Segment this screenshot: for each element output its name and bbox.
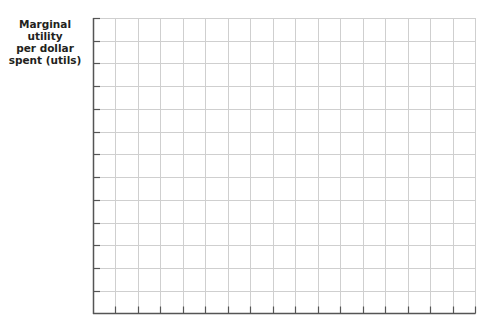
empty-graph-grid: [0, 0, 499, 334]
